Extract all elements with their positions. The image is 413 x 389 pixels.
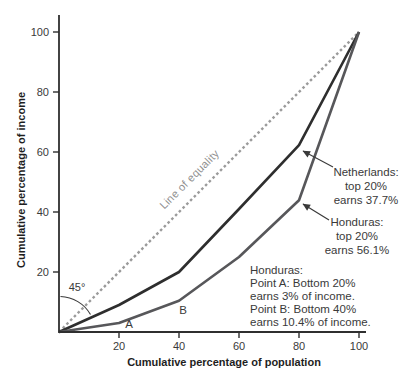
netherlands-callout-line2: top 20% — [345, 180, 387, 192]
x-axis-title: Cumulative percentage of population — [127, 356, 321, 368]
honduras-note-line2: Point A: Bottom 20% — [250, 277, 355, 289]
y-tick-label: 100 — [31, 26, 49, 38]
point-a-label: A — [125, 318, 133, 330]
honduras-note: Honduras: Point A: Bottom 20% earns 3% o… — [250, 264, 371, 328]
x-tick-label: 80 — [293, 340, 305, 352]
honduras-callout-line1: Honduras: — [330, 216, 383, 228]
y-tick-label: 20 — [37, 266, 49, 278]
netherlands-callout-line1: Netherlands: — [333, 166, 398, 178]
honduras-note-line4: Point B: Bottom 40% — [250, 303, 356, 315]
netherlands-callout: Netherlands: top 20% earns 37.7% — [333, 166, 398, 206]
x-tick-label: 60 — [233, 340, 245, 352]
y-tick-label: 60 — [37, 146, 49, 158]
honduras-arrow — [303, 204, 329, 220]
netherlands-arrow — [303, 151, 333, 167]
honduras-note-line5: earns 10.4% of income. — [250, 316, 371, 328]
y-tick-label: 80 — [37, 86, 49, 98]
honduras-callout: Honduras: top 20% earns 56.1% — [325, 216, 390, 256]
honduras-callout-line2: top 20% — [336, 230, 378, 242]
y-axis-title: Cumulative percentage of income — [15, 92, 27, 268]
x-tick-label: 40 — [173, 340, 185, 352]
lorenz-curve-figure: 20406080100 20406080100 45° Line of equa… — [0, 0, 413, 389]
x-tick-label: 100 — [350, 340, 368, 352]
y-axis-ticks: 20406080100 — [31, 26, 59, 278]
y-tick-label: 40 — [37, 206, 49, 218]
honduras-callout-line3: earns 56.1% — [325, 244, 390, 256]
honduras-note-line3: earns 3% of income. — [250, 290, 355, 302]
x-tick-label: 20 — [113, 340, 125, 352]
line-of-equality-label: Line of equality — [157, 147, 221, 211]
chart-canvas: 20406080100 20406080100 45° Line of equa… — [0, 0, 413, 389]
honduras-note-line1: Honduras: — [250, 264, 303, 276]
netherlands-callout-line3: earns 37.7% — [334, 194, 399, 206]
point-b-label: B — [179, 304, 187, 316]
angle-45-label: 45° — [69, 281, 86, 293]
x-axis-ticks: 20406080100 — [113, 332, 368, 352]
